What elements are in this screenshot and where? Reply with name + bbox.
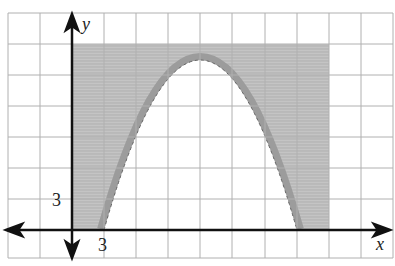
x-tick-label: 3 [98,235,107,255]
y-tick-label: 3 [52,190,61,210]
x-axis-label: x [375,234,384,254]
grid [8,13,393,258]
y-axis-label: y [80,14,90,34]
inequality-graph: y x 3 3 [0,0,395,266]
